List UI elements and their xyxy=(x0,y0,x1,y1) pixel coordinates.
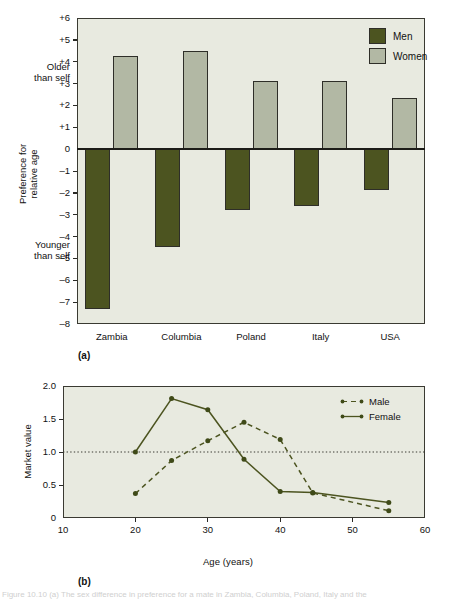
panel-a-category-label: Zambia xyxy=(72,331,152,342)
panel-a-y-tick-mark xyxy=(73,39,77,40)
note-older-line1: Older xyxy=(47,61,70,72)
panel-a-y-tick-label: +6 xyxy=(42,12,70,23)
panel-b-point-female xyxy=(242,457,247,462)
panel-b-x-tick-label: 40 xyxy=(260,524,300,535)
legend-solid-line-icon xyxy=(340,411,364,422)
legend-label-female: Female xyxy=(369,411,401,422)
panel-a-y-tick-mark xyxy=(73,302,77,303)
panel-a-y-tick-mark xyxy=(73,61,77,62)
panel-b-line-chart: 2.01.51.00.50 102030405060 Market value … xyxy=(0,372,456,600)
panel-a-y-tick-mark xyxy=(73,83,77,84)
panel-b-x-axis-title: Age (years) xyxy=(0,556,456,567)
panel-b-legend: Male Female xyxy=(340,395,401,423)
legend-swatch-women-icon xyxy=(369,48,386,64)
panel-a-bar-chart: +6+5+4+3+2+10–1–2–3–4–5–6–7–8 Older than… xyxy=(0,0,456,372)
bar-women-usa xyxy=(392,98,417,149)
panel-a-y-axis-title: Preference for relative age xyxy=(17,126,39,222)
panel-b-x-tick-label: 50 xyxy=(333,524,373,535)
panel-a-y-tick-label: –8 xyxy=(42,318,70,329)
panel-a-note-older: Older than self xyxy=(2,62,70,83)
panel-b-point-female xyxy=(205,407,210,412)
panel-a-category-label: Columbia xyxy=(141,331,221,342)
panel-a-y-tick-label: –1 xyxy=(42,165,70,176)
panel-a-y-tick-label: –7 xyxy=(42,296,70,307)
panel-b-point-female xyxy=(133,450,138,455)
panel-b-x-tick-label: 20 xyxy=(115,524,155,535)
panel-b-x-tick-label: 10 xyxy=(43,524,83,535)
panel-a-y-tick-label: –2 xyxy=(42,187,70,198)
panel-a-category-label: Poland xyxy=(211,331,291,342)
panel-a-y-tick-mark xyxy=(73,258,77,259)
panel-a-y-tick-label: +5 xyxy=(42,34,70,45)
panel-b-x-tick-mark xyxy=(280,518,281,522)
panel-a-y-tick-mark xyxy=(73,127,77,128)
panel-b-point-male xyxy=(278,437,283,442)
panel-b-point-male xyxy=(386,508,391,513)
legend-item-men: Men xyxy=(369,28,427,44)
panel-b-point-female xyxy=(169,396,174,401)
panel-a-y-tick-label: –6 xyxy=(42,274,70,285)
bar-men-usa xyxy=(364,149,389,189)
legend-label-men: Men xyxy=(393,31,412,42)
bar-women-columbia xyxy=(183,51,208,149)
panel-b-x-tick-mark xyxy=(207,518,208,522)
panel-a-tag: (a) xyxy=(78,350,90,361)
legend-dashed-line-icon xyxy=(340,396,364,407)
figure-caption: Figure 10.10 (a) The sex difference in p… xyxy=(2,590,454,599)
panel-b-x-tick-label: 30 xyxy=(188,524,228,535)
panel-b-tag: (b) xyxy=(78,576,91,587)
panel-b-x-tick-label: 60 xyxy=(405,524,445,535)
panel-a-y-tick-label: +1 xyxy=(42,121,70,132)
panel-a-y-tick-mark xyxy=(73,192,77,193)
panel-b-x-axis-title-text: Age (years) xyxy=(203,556,253,567)
note-younger-line2: than self xyxy=(34,250,70,261)
panel-a-y-tick-mark xyxy=(73,214,77,215)
legend-item-male: Male xyxy=(340,395,401,408)
panel-b-y-axis-title: Market value xyxy=(22,412,33,492)
bar-men-poland xyxy=(225,149,250,210)
legend-item-female: Female xyxy=(340,410,401,423)
panel-a-y-tick-mark xyxy=(73,280,77,281)
panel-b-point-male xyxy=(133,491,138,496)
panel-a-category-label: Italy xyxy=(281,331,361,342)
panel-a-y-tick-label: 0 xyxy=(42,143,70,154)
panel-b-point-female xyxy=(310,490,315,495)
panel-a-y-tick-mark xyxy=(73,171,77,172)
y-title-line1: Preference for xyxy=(17,144,28,204)
bar-men-columbia xyxy=(155,149,180,247)
bar-women-poland xyxy=(253,81,278,149)
panel-b-point-male xyxy=(205,438,210,443)
panel-a-legend: Men Women xyxy=(369,28,427,64)
panel-a-y-tick-mark xyxy=(73,236,77,237)
panel-a-y-tick-mark xyxy=(73,105,77,106)
figure-container: +6+5+4+3+2+10–1–2–3–4–5–6–7–8 Older than… xyxy=(0,0,456,600)
panel-a-y-tick-label: +2 xyxy=(42,99,70,110)
bar-women-italy xyxy=(322,81,347,149)
panel-b-point-male xyxy=(242,420,247,425)
legend-item-women: Women xyxy=(369,48,427,64)
legend-swatch-men-icon xyxy=(369,28,386,44)
bar-men-italy xyxy=(294,149,319,206)
panel-a-category-label: USA xyxy=(350,331,430,342)
panel-a-y-tick-label: –3 xyxy=(42,209,70,220)
panel-b-point-female xyxy=(278,489,283,494)
panel-a-zero-line xyxy=(77,148,425,149)
y-title-line2: relative age xyxy=(28,149,39,198)
panel-a-note-younger: Younger than self xyxy=(2,240,70,261)
legend-label-male: Male xyxy=(369,396,390,407)
panel-b-y-axis-title-text: Market value xyxy=(22,424,33,478)
bar-women-zambia xyxy=(113,56,138,149)
panel-b-y-tick-label: 2.0 xyxy=(24,380,56,391)
panel-b-x-tick-mark xyxy=(352,518,353,522)
note-younger-line1: Younger xyxy=(35,239,70,250)
panel-b-x-tick-mark xyxy=(135,518,136,522)
bar-men-zambia xyxy=(85,149,110,309)
panel-b-point-male xyxy=(169,458,174,463)
panel-b-y-tick-label: 0 xyxy=(24,512,56,523)
legend-label-women: Women xyxy=(393,51,427,62)
note-older-line2: than self xyxy=(34,72,70,83)
panel-b-point-female xyxy=(386,500,391,505)
